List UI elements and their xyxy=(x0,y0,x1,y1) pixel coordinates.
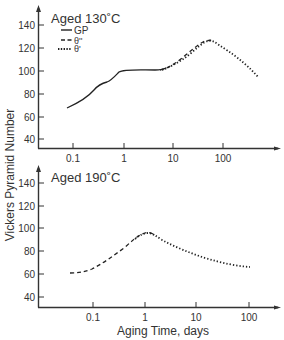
xtick-1: 1 xyxy=(121,153,127,164)
xtick-0.1: 0.1 xyxy=(86,312,100,323)
y-tick-labels-bottom: 140 120 100 80 60 40 xyxy=(18,178,35,303)
xtick-100: 100 xyxy=(241,312,258,323)
xtick-0.1: 0.1 xyxy=(66,153,80,164)
figure: 140 120 100 80 60 40 0.1 1 10 100 Aged 1… xyxy=(0,0,284,340)
curve-theta-double-prime-130 xyxy=(160,40,214,70)
ytick-100: 100 xyxy=(18,66,35,77)
ytick-60: 60 xyxy=(24,112,36,123)
ytick-60: 60 xyxy=(24,269,36,280)
curve-theta-prime-190 xyxy=(135,233,250,267)
ytick-140: 140 xyxy=(18,20,35,31)
x-axis-arrow-bottom xyxy=(274,306,281,310)
x-tick-labels-top: 0.1 1 10 100 xyxy=(66,153,232,164)
xtick-100: 100 xyxy=(215,153,232,164)
xtick-10: 10 xyxy=(190,312,202,323)
chart-bottom: 140 120 100 80 60 40 0.1 1 10 100 Aged 1… xyxy=(18,165,281,323)
ytick-40: 40 xyxy=(24,134,36,145)
chart-title-bottom: Aged 190˚C xyxy=(51,170,120,185)
x-tick-labels-bottom: 0.1 1 10 100 xyxy=(86,312,258,323)
xtick-1: 1 xyxy=(142,312,148,323)
ytick-80: 80 xyxy=(24,89,36,100)
curve-gp-130 xyxy=(67,68,166,108)
chart-title-top: Aged 130˚C xyxy=(51,11,120,26)
y-axis-arrow-top xyxy=(36,5,41,12)
ytick-80: 80 xyxy=(24,246,36,257)
y-axis-label: Vickers Pyramid Number xyxy=(3,109,17,241)
x-ticks-top xyxy=(73,143,223,148)
y-axis-arrow-bottom xyxy=(36,165,41,172)
x-axis-arrow-top xyxy=(274,147,281,151)
ytick-40: 40 xyxy=(24,292,36,303)
ytick-120: 120 xyxy=(18,201,35,212)
y-tick-labels-top: 140 120 100 80 60 40 xyxy=(18,20,35,145)
chart-top: 140 120 100 80 60 40 0.1 1 10 100 Aged 1… xyxy=(18,5,281,164)
ytick-120: 120 xyxy=(18,43,35,54)
legend-label-gp: GP xyxy=(74,25,89,36)
curve-theta-double-prime-190 xyxy=(70,233,153,273)
legend: GP θ'' θ' xyxy=(58,25,89,54)
ytick-100: 100 xyxy=(18,223,35,234)
curve-theta-prime-130 xyxy=(162,41,258,77)
legend-label-theta-prime: θ' xyxy=(74,44,81,54)
xtick-10: 10 xyxy=(167,153,179,164)
x-axis-label: Aging Time, days xyxy=(117,324,209,338)
ytick-140: 140 xyxy=(18,178,35,189)
x-ticks-bottom xyxy=(93,302,249,307)
